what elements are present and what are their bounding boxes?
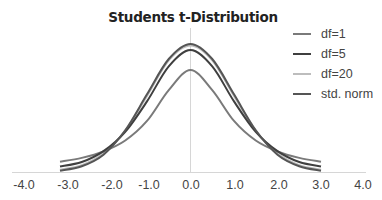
legend: df=1 df=5 df=20 std. norm: [293, 24, 373, 104]
legend-label-df1: df=1: [321, 27, 346, 41]
legend-swatch-df5: [293, 53, 311, 55]
legend-swatch-df1: [293, 33, 311, 35]
legend-item-df20: df=20: [293, 64, 373, 84]
x-tick-label: 0.0: [182, 178, 199, 192]
x-tick-label: 2.0: [270, 178, 287, 192]
legend-item-std-norm: std. norm: [293, 84, 373, 104]
x-tick-label: -4.0: [13, 178, 35, 192]
legend-label-std-norm: std. norm: [321, 87, 373, 101]
x-tick-label: -3.0: [57, 178, 79, 192]
legend-item-df5: df=5: [293, 44, 373, 64]
legend-swatch-std-norm: [293, 93, 311, 95]
x-tick-label: -1.0: [138, 178, 160, 192]
x-tick-label: 4.0: [354, 178, 371, 192]
x-tick-label: -2.0: [101, 178, 123, 192]
legend-label-df5: df=5: [321, 47, 346, 61]
legend-swatch-df20: [293, 73, 311, 75]
legend-label-df20: df=20: [321, 67, 353, 81]
legend-item-df1: df=1: [293, 24, 373, 44]
x-tick-label: 1.0: [226, 178, 243, 192]
x-tick-label: 3.0: [312, 178, 329, 192]
